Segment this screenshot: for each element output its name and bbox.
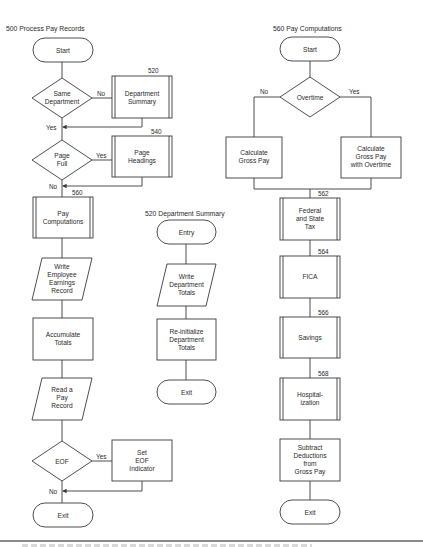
branch-label-yes: Yes	[46, 124, 56, 131]
chart-title: 500 Process Pay Records	[6, 25, 85, 33]
branch-label-yes: Yes	[349, 88, 359, 95]
svg-text:Entry: Entry	[179, 229, 195, 237]
process-department-summary: 520 Department Summary	[112, 67, 172, 118]
start-terminal: Start	[33, 38, 93, 62]
svg-text:ization: ization	[300, 399, 319, 406]
flowchart-process-pay-records: 500 Process Pay Records Start Same Depar…	[6, 25, 172, 527]
decision-overtime: Overtime	[280, 77, 340, 117]
svg-text:560: 560	[72, 189, 83, 196]
svg-text:Read a: Read a	[51, 386, 73, 393]
svg-text:566: 566	[318, 309, 329, 316]
svg-text:Calculate: Calculate	[357, 145, 385, 152]
process-calculate-gross-pay: Calculate Gross Pay	[226, 137, 282, 178]
process-page-headings: 540 Page Headings	[112, 128, 172, 177]
svg-text:and State: and State	[296, 215, 325, 222]
branch-label-no: No	[260, 88, 269, 95]
svg-text:Headings: Headings	[128, 157, 157, 165]
decision-eof: EOF	[32, 441, 92, 481]
io-write-department-totals: Write Department Totals	[157, 264, 216, 306]
svg-text:Department: Department	[169, 281, 204, 289]
svg-text:Exit: Exit	[58, 512, 69, 519]
svg-text:Summary: Summary	[128, 98, 157, 106]
svg-text:564: 564	[318, 248, 329, 255]
svg-text:Gross Pay: Gross Pay	[295, 468, 326, 476]
svg-text:Exit: Exit	[181, 389, 192, 396]
svg-text:Record: Record	[51, 402, 73, 409]
svg-text:Pay: Pay	[57, 210, 69, 218]
svg-text:Full: Full	[57, 160, 68, 167]
svg-text:Totals: Totals	[178, 289, 196, 296]
process-calculate-gross-pay-with-overtime: Calculate Gross Pay with Overtime	[341, 137, 401, 178]
svg-text:Set: Set	[137, 449, 147, 456]
svg-text:Totals: Totals	[178, 344, 196, 351]
svg-text:Gross Pay: Gross Pay	[239, 157, 270, 165]
svg-text:Pay: Pay	[56, 394, 68, 402]
svg-text:Re-initialize: Re-initialize	[169, 328, 203, 335]
svg-text:Deductions: Deductions	[294, 452, 328, 459]
svg-text:Federal: Federal	[299, 207, 322, 214]
page-divider	[0, 540, 423, 542]
svg-text:Gross Pay: Gross Pay	[356, 153, 387, 161]
start-terminal: Start	[280, 37, 340, 61]
svg-text:520: 520	[148, 67, 159, 74]
svg-text:Tax: Tax	[305, 223, 316, 230]
exit-terminal: Exit	[280, 500, 340, 524]
svg-text:Hospital-: Hospital-	[297, 391, 323, 399]
io-write-employee-earnings-record: Write Employee Earnings Record	[32, 258, 92, 300]
svg-text:Department: Department	[169, 336, 204, 344]
decision-same-department: Same Department	[32, 78, 92, 118]
branch-label-no: No	[49, 488, 58, 495]
svg-text:Department: Department	[125, 90, 160, 98]
svg-text:Page: Page	[54, 152, 70, 160]
process-accumulate-totals: Accumulate Totals	[33, 318, 93, 360]
entry-terminal: Entry	[157, 220, 216, 244]
svg-text:Savings: Savings	[298, 334, 322, 342]
svg-text:Record: Record	[51, 287, 73, 294]
svg-text:Same: Same	[53, 90, 71, 97]
svg-text:Department: Department	[45, 98, 80, 106]
svg-text:Start: Start	[56, 47, 70, 54]
svg-text:Computations: Computations	[43, 218, 84, 226]
process-set-eof-indicator: Set EOF Indicator	[112, 440, 172, 481]
svg-text:EOF: EOF	[135, 457, 149, 464]
svg-text:FICA: FICA	[302, 273, 318, 280]
branch-label-yes: Yes	[96, 152, 106, 159]
flowchart-canvas: 500 Process Pay Records Start Same Depar…	[0, 0, 423, 547]
process-pay-computations: 560 Pay Computations	[33, 189, 93, 238]
svg-text:540: 540	[151, 128, 162, 135]
svg-text:Totals: Totals	[54, 339, 72, 346]
svg-text:Accumulate: Accumulate	[46, 331, 81, 338]
svg-text:Write: Write	[179, 273, 195, 280]
exit-terminal: Exit	[33, 503, 93, 527]
svg-text:EOF: EOF	[55, 458, 69, 465]
io-read-pay-record: Read a Pay Record	[32, 378, 92, 420]
svg-text:from: from	[303, 460, 317, 467]
svg-text:Page: Page	[134, 149, 150, 157]
svg-text:Start: Start	[303, 46, 317, 53]
chart-title: 560 Pay Computations	[273, 25, 342, 33]
branch-label-yes: Yes	[96, 453, 106, 460]
svg-text:Indicator: Indicator	[129, 465, 155, 472]
branch-label-no: No	[97, 90, 106, 97]
svg-text:568: 568	[318, 370, 329, 377]
svg-text:Overtime: Overtime	[297, 94, 324, 101]
decision-page-full: Page Full	[32, 140, 92, 180]
svg-text:562: 562	[318, 190, 329, 197]
process-subtract-deductions: Subtract Deductions from Gross Pay	[280, 439, 340, 481]
flowchart-department-summary: 520 Department Summary Entry Write Depar…	[145, 210, 225, 404]
svg-text:with Overtime: with Overtime	[350, 161, 392, 168]
svg-text:Employee: Employee	[47, 271, 77, 279]
process-reinitialize-department-totals: Re-initialize Department Totals	[157, 319, 216, 360]
flowchart-pay-computations: 560 Pay Computations Start Overtime No Y…	[226, 25, 401, 524]
svg-text:Earnings: Earnings	[49, 279, 76, 287]
svg-text:Calculate: Calculate	[240, 149, 268, 156]
svg-text:Exit: Exit	[305, 509, 316, 516]
chart-title: 520 Department Summary	[145, 210, 225, 218]
svg-text:Write: Write	[54, 263, 70, 270]
exit-terminal: Exit	[157, 380, 216, 404]
svg-text:Subtract: Subtract	[298, 444, 323, 451]
branch-label-no: No	[49, 183, 58, 190]
